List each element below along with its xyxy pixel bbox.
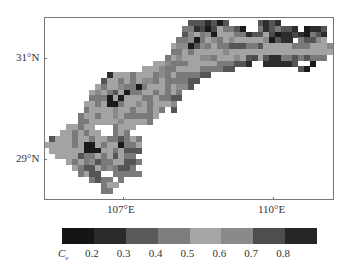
grid-cell <box>136 171 142 177</box>
map-frame <box>44 17 334 200</box>
x-label-107e: 107°E <box>107 203 135 215</box>
grid-cell <box>188 84 194 90</box>
grid-cell <box>246 61 252 67</box>
colorbar-segment <box>190 228 222 244</box>
colorbar-segment <box>126 228 158 244</box>
colorbar <box>62 228 317 244</box>
colorbar-tick-label: 0.3 <box>117 247 131 259</box>
colorbar-segment <box>158 228 190 244</box>
colorbar-segment <box>94 228 126 244</box>
grid-cell <box>130 124 136 130</box>
grid-cell <box>194 78 200 84</box>
grid-cell <box>147 119 153 125</box>
y-tick-31 <box>44 58 47 59</box>
grid-cell <box>113 182 119 188</box>
grid-cell <box>153 113 159 119</box>
y-label-29n: 29°N <box>16 152 39 164</box>
colorbar-tick-label: 0.8 <box>276 247 290 259</box>
x-tick-107 <box>123 197 124 200</box>
grid-cell <box>118 177 124 183</box>
grid-cell <box>176 95 182 101</box>
colorbar-segment <box>253 228 285 244</box>
grid-cell <box>304 66 310 72</box>
colorbar-tick-label: 0.6 <box>212 247 226 259</box>
y-tick-29 <box>44 159 47 160</box>
colorbar-tick-label: 0.2 <box>85 247 99 259</box>
colorbar-title: Cv <box>58 247 68 262</box>
colorbar-tick-label: 0.7 <box>244 247 258 259</box>
x-tick-110 <box>273 197 274 200</box>
colorbar-segment <box>285 228 317 244</box>
grid-cell <box>310 61 316 67</box>
grid-cell <box>333 49 334 55</box>
grid-cell <box>159 107 165 113</box>
colorbar-segment <box>62 228 94 244</box>
grid-cell <box>107 188 113 194</box>
grid-cell <box>229 66 235 72</box>
grid-cell <box>136 148 142 154</box>
colorbar-segment <box>221 228 253 244</box>
grid-cell <box>205 72 211 78</box>
colorbar-tick-label: 0.5 <box>181 247 195 259</box>
colorbar-tick-label: 0.4 <box>149 247 163 259</box>
grid-cell <box>136 159 142 165</box>
grid-cell <box>171 107 177 113</box>
grid-cell <box>321 55 327 61</box>
y-label-31n: 31°N <box>16 51 39 63</box>
x-label-110e: 110°E <box>258 203 285 215</box>
